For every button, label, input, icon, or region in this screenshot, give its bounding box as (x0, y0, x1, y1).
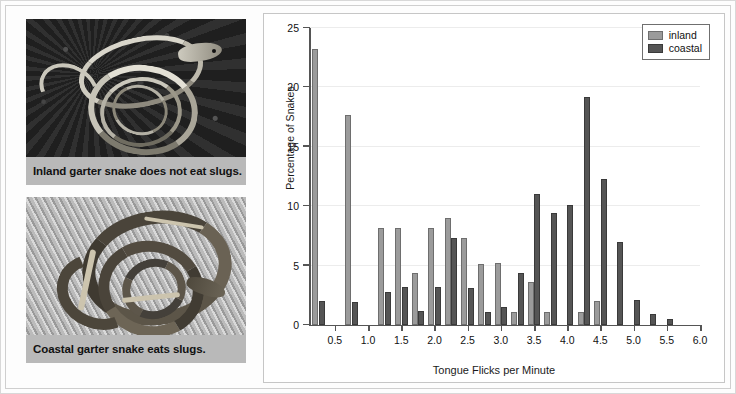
x-tick (567, 325, 569, 331)
y-tick-label: 15 (287, 141, 299, 153)
photo-coastal-garter-snake: Coastal garter snake eats slugs. (26, 197, 246, 363)
bar-coastal (584, 97, 590, 325)
y-tick (303, 27, 310, 29)
bar-coastal (451, 238, 457, 325)
photo-caption-inland: Inland garter snake does not eat slugs. (26, 157, 246, 185)
bar-coastal (468, 288, 474, 325)
x-tick (401, 325, 403, 331)
photo-caption-coastal: Coastal garter snake eats slugs. (26, 335, 246, 363)
x-tick (368, 325, 370, 331)
x-axis-label: Tongue Flicks per Minute (264, 364, 724, 376)
bar-inland (378, 228, 384, 325)
legend-swatch-inland-icon (648, 31, 663, 40)
bar-coastal (534, 194, 540, 325)
y-tick-label: 10 (287, 200, 299, 212)
coastal-snake-image (26, 197, 246, 335)
bar-coastal (485, 312, 491, 325)
bar-inland (461, 238, 467, 325)
x-tick-label: 1.5 (394, 334, 409, 346)
x-tick-label: 2.0 (427, 334, 442, 346)
legend-label-inland: inland (669, 29, 697, 42)
bar-coastal (601, 179, 607, 325)
y-tick (303, 264, 310, 266)
legend-item-inland: inland (648, 29, 702, 42)
x-tick-label: 5.5 (659, 334, 674, 346)
x-tick (634, 325, 636, 331)
bar-inland (528, 282, 534, 325)
x-tick (700, 325, 702, 331)
bar-coastal (617, 242, 623, 325)
y-tick-label: 0 (293, 319, 299, 331)
x-tick-label: 0.5 (328, 334, 343, 346)
y-tick (303, 205, 310, 207)
x-tick-label: 3.5 (527, 334, 542, 346)
y-tick (303, 145, 310, 147)
x-tick-label: 4.0 (560, 334, 575, 346)
x-tick-label: 1.0 (361, 334, 376, 346)
bar-coastal (418, 311, 424, 325)
snake-eye (212, 49, 216, 53)
bar-inland (428, 228, 434, 325)
bar-coastal (402, 287, 408, 325)
bar-coastal (518, 273, 524, 325)
x-tick-label: 4.5 (593, 334, 608, 346)
chart-panel: Percentage of Snakes Tongue Flicks per M… (263, 13, 725, 383)
x-tick (335, 325, 337, 331)
legend-label-coastal: coastal (669, 42, 702, 55)
y-tick (303, 324, 310, 326)
y-tick-label: 5 (293, 260, 299, 272)
bar-inland (578, 312, 584, 325)
inland-snake-image (26, 19, 246, 157)
bar-inland (345, 115, 351, 325)
x-tick-label: 2.5 (460, 334, 475, 346)
legend-item-coastal: coastal (648, 42, 702, 55)
x-tick (534, 325, 536, 331)
x-tick (468, 325, 470, 331)
bar-inland (594, 301, 600, 325)
y-tick-label: 20 (287, 81, 299, 93)
bar-inland (495, 263, 501, 325)
bar-coastal (319, 301, 325, 325)
bar-coastal (501, 307, 507, 325)
bar-inland (412, 273, 418, 325)
bar-inland (544, 312, 550, 325)
bar-coastal (435, 287, 441, 325)
x-tick (667, 325, 669, 331)
bar-inland (511, 312, 517, 325)
figure-container: Inland garter snake does not eat slugs. … (0, 0, 736, 394)
bar-inland (395, 228, 401, 325)
bar-inland (478, 264, 484, 325)
bar-coastal (650, 314, 656, 325)
x-tick (501, 325, 503, 331)
y-tick-label: 25 (287, 22, 299, 34)
x-tick-label: 5.0 (626, 334, 641, 346)
x-tick (434, 325, 436, 331)
bar-coastal (567, 205, 573, 325)
bar-coastal (352, 302, 358, 325)
bar-inland (445, 218, 451, 325)
bar-coastal (634, 300, 640, 325)
chart-legend: inland coastal (642, 24, 710, 60)
y-tick (303, 86, 310, 88)
photo-inland-garter-snake: Inland garter snake does not eat slugs. (26, 19, 246, 185)
x-tick-label: 6.0 (693, 334, 708, 346)
bars-layer (310, 28, 700, 325)
x-tick (600, 325, 602, 331)
x-tick-label: 3.0 (494, 334, 509, 346)
plot-region: 0510152025 0.51.01.52.02.53.03.54.04.55.… (310, 28, 700, 325)
bar-coastal (385, 292, 391, 325)
bar-coastal (667, 319, 673, 325)
bar-inland (312, 49, 318, 325)
bar-coastal (551, 213, 557, 325)
legend-swatch-coastal-icon (648, 44, 663, 53)
